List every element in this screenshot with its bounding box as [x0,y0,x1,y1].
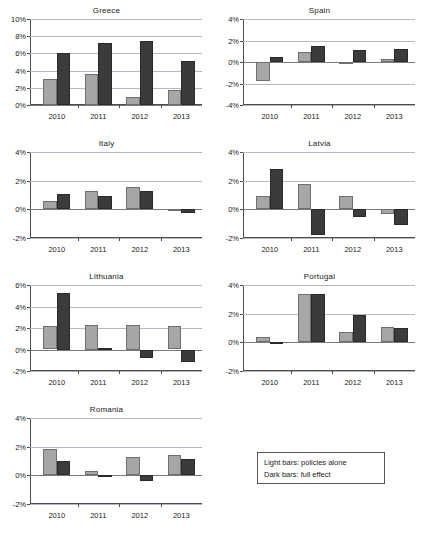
panel-title: Latvia [213,139,426,148]
x-axis-line [30,503,202,504]
panel-title: Romania [0,405,213,414]
bar-2013-dark [181,350,195,363]
x-tick-mark [78,371,79,374]
gridline [243,41,415,42]
bar-2012-light [339,62,353,64]
y-tick-mark [27,307,30,308]
panel-title: Italy [0,139,213,148]
x-tick-label: 2012 [344,245,361,254]
bar-2011-light [85,74,99,105]
y-tick-label: 4% [15,302,26,311]
gridline [30,504,202,505]
y-tick-mark [27,152,30,153]
y-tick-mark [27,475,30,476]
y-tick-label: -2% [226,367,239,376]
bar-2011-light [298,294,312,343]
bar-2010-light [256,196,270,209]
y-tick-label: 4% [15,66,26,75]
y-tick-label: 6% [15,49,26,58]
bar-2011-light [298,52,312,62]
bar-2010-light [43,79,57,105]
y-tick-mark [27,71,30,72]
panel-title: Lithuania [0,272,213,281]
plot-area: -2%0%2%4%6%2010201120122013 [30,285,202,371]
gridline [30,19,202,20]
legend-line-dark: Dark bars: full effect [264,469,378,481]
y-tick-mark [27,53,30,54]
bar-2013-dark [181,209,195,213]
y-tick-label: 4% [15,414,26,423]
y-tick-mark [240,238,243,239]
x-tick-mark [78,504,79,507]
bar-2013-light [381,209,395,213]
x-tick-mark [291,238,292,241]
x-tick-label: 2011 [90,511,106,520]
chart-panel-latvia: Latvia-2%0%2%4%2010201120122013 [213,133,426,266]
bar-2013-dark [394,209,408,225]
x-tick-label: 2010 [261,245,278,254]
y-tick-mark [27,19,30,20]
bar-2010-dark [57,461,71,475]
y-tick-mark [27,36,30,37]
x-tick-label: 2011 [90,245,106,254]
gridline [30,238,202,239]
gridline [30,285,202,286]
plot-area: -2%0%2%4%2010201120122013 [30,418,202,504]
bar-2012-dark [140,350,154,358]
x-tick-label: 2012 [131,378,148,387]
bar-2010-light [256,62,270,81]
y-tick-label: 0% [15,101,26,110]
bar-2010-dark [270,342,284,344]
bar-2010-dark [270,169,284,209]
plot-area: -4%-2%0%2%4%2010201120122013 [243,19,415,105]
y-tick-mark [27,238,30,239]
bar-2011-dark [98,475,112,477]
x-tick-label: 2010 [48,245,65,254]
y-tick-mark [240,314,243,315]
x-tick-mark [78,105,79,108]
y-tick-label: -2% [13,500,26,509]
x-tick-mark [161,238,162,241]
y-axis-line [243,285,244,371]
y-tick-label: 4% [228,148,239,157]
x-tick-mark [161,105,162,108]
x-tick-label: 2010 [48,378,65,387]
bar-2010-dark [57,194,71,209]
x-tick-label: 2011 [90,112,106,121]
y-tick-label: 2% [228,309,239,318]
x-tick-mark [332,371,333,374]
x-tick-mark [161,371,162,374]
gridline [243,152,415,153]
y-tick-label: 0% [228,58,239,67]
bar-2010-light [43,326,57,350]
bar-2011-dark [98,348,112,350]
y-tick-label: 2% [15,83,26,92]
bar-2011-dark [311,46,325,62]
x-tick-label: 2011 [90,378,106,387]
x-tick-label: 2013 [386,378,403,387]
x-tick-label: 2013 [386,245,403,254]
bar-2010-dark [270,57,284,62]
y-tick-label: -2% [13,234,26,243]
x-tick-mark [332,238,333,241]
bar-2011-dark [311,294,325,342]
bar-2013-light [381,327,395,343]
x-tick-mark [119,504,120,507]
y-tick-label: 0% [15,205,26,214]
gridline [30,36,202,37]
gridline [30,371,202,372]
y-tick-label: 0% [15,471,26,480]
bar-2012-dark [140,41,154,105]
y-tick-mark [27,504,30,505]
bar-2011-light [298,184,312,210]
y-tick-label: -2% [13,367,26,376]
x-tick-label: 2012 [131,511,148,520]
y-tick-label: 4% [228,281,239,290]
bar-2011-light [85,325,99,349]
x-tick-label: 2012 [131,112,148,121]
y-tick-mark [240,371,243,372]
bar-2012-dark [353,315,367,342]
chart-panel-romania: Romania-2%0%2%4%2010201120122013 [0,399,213,532]
chart-panel-portugal: Portugal-2%0%2%4%2010201120122013 [213,266,426,399]
plot-area: -2%0%2%4%2010201120122013 [30,152,202,238]
